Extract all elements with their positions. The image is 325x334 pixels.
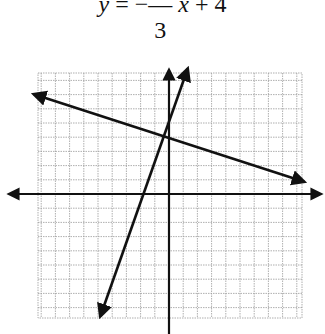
coordinate-plane [0,0,325,334]
